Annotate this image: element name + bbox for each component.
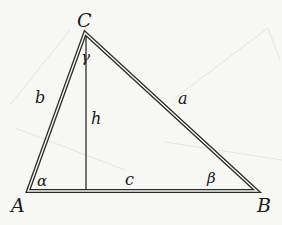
angle-label-beta: β [206, 169, 216, 187]
triangle-diagram: C A B b a c h γ α β [0, 0, 282, 225]
side-label-b: b [35, 88, 45, 107]
triangle-outline [28, 33, 257, 191]
side-label-a: a [178, 89, 188, 108]
background-ghost-lines [10, 28, 282, 170]
vertex-label-b: B [256, 194, 271, 216]
vertex-label-c: C [77, 9, 92, 31]
altitude-label-h: h [91, 109, 101, 128]
side-label-c: c [125, 170, 134, 189]
angle-label-gamma: γ [81, 48, 90, 66]
angle-label-alpha: α [37, 172, 47, 190]
vertex-label-a: A [9, 194, 25, 216]
